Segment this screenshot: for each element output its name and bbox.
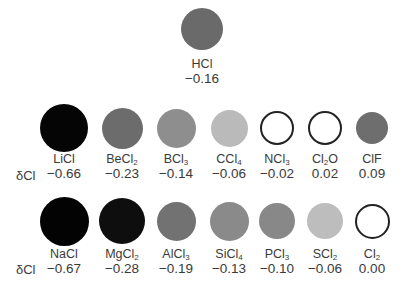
molecule-name-hcl: HCl bbox=[167, 57, 237, 71]
charge-circle-mgcl2 bbox=[99, 198, 145, 244]
charge-value-clf: 0.09 bbox=[337, 166, 403, 181]
charge-circle-ccl4 bbox=[211, 110, 248, 147]
charge-circle-bcl3 bbox=[157, 109, 196, 148]
charge-circle-scl2 bbox=[307, 203, 343, 239]
delta-cl-label-row2: δCl bbox=[16, 262, 36, 277]
charge-circle-nacl bbox=[40, 197, 89, 246]
charge-value-hcl: −0.16 bbox=[167, 71, 237, 86]
charge-circle-sicl4 bbox=[210, 202, 249, 241]
charge-circle-ncl3 bbox=[260, 111, 294, 145]
molecule-name-cl2: Cl2 bbox=[337, 247, 403, 261]
charge-circle-becl2 bbox=[102, 108, 143, 149]
charge-circle-cl2o bbox=[308, 111, 342, 145]
charge-circle-alcl3 bbox=[157, 202, 196, 241]
charge-circle-licl bbox=[40, 104, 88, 152]
molecule-name-clf: ClF bbox=[337, 152, 403, 166]
charge-circle-pcl3 bbox=[259, 203, 295, 239]
charge-circle-cl2 bbox=[355, 204, 390, 239]
charge-circle-clf bbox=[356, 112, 388, 144]
charge-value-cl2: 0.00 bbox=[337, 261, 403, 276]
charge-circle-hcl bbox=[181, 8, 223, 50]
